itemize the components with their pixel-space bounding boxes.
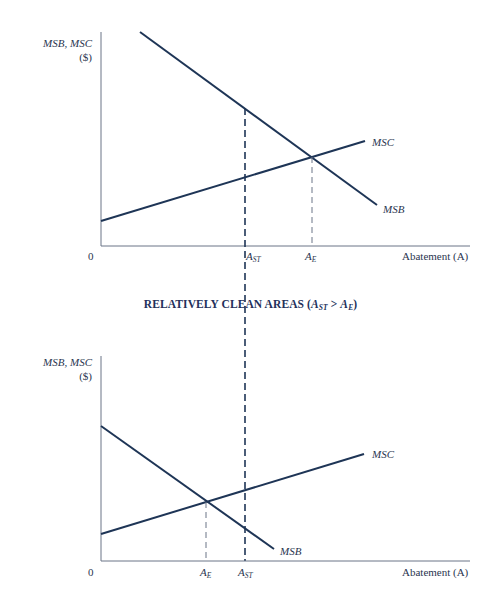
heading-ast: A (311, 298, 319, 310)
top-origin-label: 0 (88, 250, 94, 262)
bottom-msb-label: MSB (280, 545, 301, 557)
bottom-msb-curve (101, 426, 274, 549)
top-msb-curve (140, 32, 377, 205)
bottom-y-label-line2: ($) (2, 369, 92, 383)
heading-ae: A (340, 298, 348, 310)
bottom-ast-tick-label: AST (238, 566, 253, 580)
bottom-y-axis-label: MSB, MSC ($) (2, 355, 92, 383)
top-y-label-line2: ($) (2, 50, 92, 64)
top-ast-letter: A (246, 250, 253, 262)
top-y-axis-label: MSB, MSC ($) (2, 36, 92, 64)
heading-ast-sub: ST (319, 303, 328, 312)
bottom-y-label-line1: MSB, MSC (2, 355, 92, 369)
top-ae-tick-label: AE (305, 250, 316, 264)
bottom-ae-sub: E (207, 571, 212, 580)
bottom-chart (101, 356, 470, 561)
top-msb-label: MSB (383, 203, 404, 215)
top-y-label-line1: MSB, MSC (2, 36, 92, 50)
top-ae-letter: A (305, 250, 312, 262)
top-ae-sub: E (312, 255, 317, 264)
top-msc-label: MSC (372, 136, 394, 148)
bottom-msc-label: MSC (372, 448, 394, 460)
top-x-axis-label: Abatement (A) (402, 250, 468, 262)
top-ast-tick-label: AST (246, 250, 261, 264)
section-heading: RELATIVELY CLEAN AREAS (AST > AE) (0, 298, 501, 312)
bottom-ast-sub: ST (245, 571, 253, 580)
bottom-origin-label: 0 (88, 566, 94, 578)
heading-text: RELATIVELY CLEAN AREAS ( (144, 298, 311, 310)
bottom-x-axis-label: Abatement (A) (402, 566, 468, 578)
bottom-ae-letter: A (200, 566, 207, 578)
bottom-ae-tick-label: AE (200, 566, 211, 580)
heading-gt: > (328, 298, 341, 310)
top-msc-curve (101, 141, 365, 221)
bottom-ast-letter: A (238, 566, 245, 578)
heading-close: ) (353, 298, 357, 310)
bottom-msc-curve (101, 454, 364, 534)
top-chart (101, 32, 470, 246)
top-ast-sub: ST (253, 255, 261, 264)
